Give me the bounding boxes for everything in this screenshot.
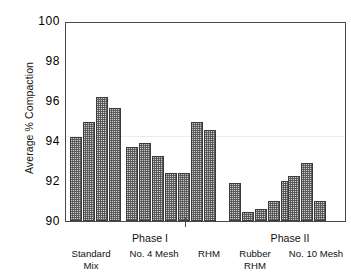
bar-standard-mix-1 [70, 137, 82, 221]
group-label-standard-mix: Standard Mix [50, 248, 132, 271]
group-label-line1: Rubber [239, 248, 270, 259]
group-label-line2: Mix [50, 260, 132, 272]
y-tick-98: 98 [30, 54, 60, 68]
phase-label-1: Phase I [60, 232, 240, 244]
group-label-rhm: RHM [178, 248, 240, 260]
plot-area [65, 22, 346, 222]
y-tick-94: 94 [30, 134, 60, 148]
bar-standard-mix-2 [83, 122, 95, 221]
bar-rubber-rhm-3 [255, 209, 267, 221]
group-label-line1: No. 4 Mesh [129, 248, 178, 259]
y-tick-96: 96 [30, 94, 60, 108]
bar-no-10-mesh-2 [301, 163, 313, 221]
bar-no-4-mesh-2 [139, 143, 151, 221]
bar-no-4-mesh-4 [165, 173, 177, 221]
bar-rubber-rhm-2 [242, 212, 254, 221]
bar-no-4-mesh-1 [126, 147, 138, 221]
bar-no-10-mesh-3 [314, 201, 326, 221]
y-tick-100: 100 [30, 14, 60, 28]
bar-no-4-mesh-5 [178, 173, 190, 221]
bar-rubber-rhm-4 [268, 201, 280, 221]
group-label-line1: No. 10 Mesh [289, 248, 343, 259]
bar-rhm-2 [204, 130, 216, 221]
group-label-rubber-rhm: Rubber RHM [216, 248, 294, 271]
bars-layer [66, 23, 345, 221]
group-label-line1: RHM [198, 248, 220, 259]
bar-rubber-rhm-1 [229, 183, 241, 221]
bar-standard-mix-4 [109, 108, 121, 221]
group-label-line2: RHM [216, 260, 294, 272]
phase-label-2: Phase II [205, 232, 351, 244]
y-axis-tick-labels: 100 98 96 94 92 90 [28, 0, 60, 280]
group-label-no-10-mesh: No. 10 Mesh [280, 248, 351, 260]
bar-rhm-1 [191, 122, 203, 221]
group-label-line1: Standard [72, 248, 111, 259]
y-tick-90: 90 [30, 214, 60, 228]
phase-separator-tick [185, 218, 186, 227]
bar-standard-mix-3 [96, 97, 108, 221]
bar-chart: Average % Compaction 100 98 96 94 92 90 … [0, 0, 351, 280]
bar-no-4-mesh-3 [152, 156, 164, 221]
y-tick-92: 92 [30, 174, 60, 188]
group-label-no-4-mesh: No. 4 Mesh [113, 248, 195, 260]
bar-no-10-mesh-1 [288, 176, 300, 221]
